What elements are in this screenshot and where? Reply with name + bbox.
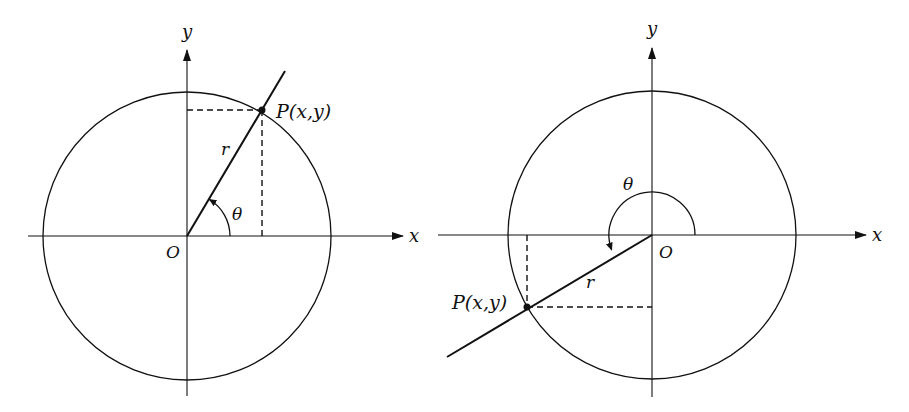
x-axis-label: x — [409, 225, 419, 246]
origin-label: O — [659, 242, 673, 262]
angle-label: θ — [232, 204, 242, 224]
figure-left: x y O r θ P(x,y) — [28, 21, 419, 396]
radius-label: r — [221, 139, 230, 159]
angle-arc — [210, 200, 231, 237]
x-axis-label: x — [872, 224, 882, 245]
polar-coordinates-diagram: x y O r θ P(x,y) x y O r θ P(x,y) — [0, 0, 909, 412]
point-p-dot — [259, 107, 266, 114]
point-p-dot — [524, 304, 531, 311]
figure-right: x y O r θ P(x,y) — [438, 18, 882, 397]
point-label: P(x,y) — [451, 291, 507, 313]
origin-label: O — [166, 242, 180, 262]
angle-label: θ — [623, 174, 633, 194]
point-label: P(x,y) — [275, 100, 331, 122]
radius-label: r — [586, 272, 595, 292]
y-axis-label: y — [646, 18, 658, 39]
y-axis-label: y — [181, 21, 193, 42]
